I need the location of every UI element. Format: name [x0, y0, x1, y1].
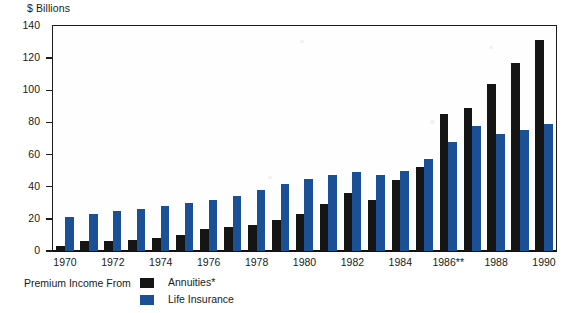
bar-group — [464, 26, 481, 251]
bar-life-insurance — [472, 126, 481, 251]
x-axis-label: 1984 — [389, 256, 412, 268]
bar-group — [56, 26, 73, 251]
bar-group — [104, 26, 121, 251]
bar-group — [272, 26, 289, 251]
bar-group — [200, 26, 217, 251]
bar-life-insurance — [304, 179, 313, 251]
bar-series-container — [53, 26, 556, 251]
chart-legend: Premium Income From Annuities* Life Insu… — [24, 276, 354, 312]
bar-life-insurance — [257, 190, 266, 251]
bar-annuities — [296, 214, 305, 251]
y-axis-unit-label: $ Billions — [27, 2, 70, 14]
x-axis-label: 1970 — [53, 256, 76, 268]
bar-group — [344, 26, 361, 251]
x-axis-label: 1980 — [293, 256, 316, 268]
bar-life-insurance — [185, 203, 194, 251]
bar-life-insurance — [352, 172, 361, 251]
y-axis-label: 0 — [0, 244, 40, 256]
y-axis-label: 120 — [0, 51, 40, 63]
bar-group — [535, 26, 552, 251]
y-axis-tick — [46, 186, 53, 187]
y-axis-tick — [46, 154, 53, 155]
bar-group — [416, 26, 433, 251]
x-axis-label: 1974 — [149, 256, 172, 268]
bar-group — [128, 26, 145, 251]
bar-annuities — [535, 40, 544, 251]
bar-life-insurance — [400, 171, 409, 251]
bar-life-insurance — [233, 196, 242, 251]
bar-group — [176, 26, 193, 251]
chart-figure: $ Billions 020406080100120140 1970197219… — [0, 0, 572, 313]
bar-life-insurance — [281, 184, 290, 252]
bar-annuities — [80, 241, 89, 251]
y-axis-tick — [46, 250, 53, 251]
bar-annuities — [176, 235, 185, 251]
bar-annuities — [56, 246, 65, 251]
bar-annuities — [464, 108, 473, 251]
legend-caption: Premium Income From — [24, 277, 131, 289]
bar-group — [296, 26, 313, 251]
bar-annuities — [224, 227, 233, 251]
x-axis-label: 1978 — [245, 256, 268, 268]
y-axis-label: 80 — [0, 115, 40, 127]
bar-group — [248, 26, 265, 251]
bar-life-insurance — [328, 175, 337, 251]
y-axis-label: 40 — [0, 180, 40, 192]
x-axis-label: 1972 — [101, 256, 124, 268]
x-axis-label: 1990 — [532, 256, 555, 268]
bar-group — [368, 26, 385, 251]
bar-annuities — [152, 238, 161, 251]
bar-annuities — [320, 204, 329, 251]
bar-annuities — [104, 241, 113, 251]
bar-life-insurance — [496, 134, 505, 251]
legend-swatch-annuities-icon — [140, 278, 154, 288]
bar-life-insurance — [520, 130, 529, 251]
bar-life-insurance — [424, 159, 433, 251]
bar-group — [487, 26, 504, 251]
bar-annuities — [368, 200, 377, 251]
bar-life-insurance — [544, 124, 553, 251]
legend-swatch-life-insurance-icon — [140, 295, 154, 305]
bar-life-insurance — [137, 209, 146, 251]
y-axis-label: 20 — [0, 212, 40, 224]
bar-life-insurance — [448, 142, 457, 251]
bar-group — [320, 26, 337, 251]
bar-annuities — [200, 229, 209, 252]
bar-annuities — [272, 220, 281, 251]
y-axis-tick — [46, 57, 53, 58]
bar-group — [511, 26, 528, 251]
y-axis-label: 100 — [0, 83, 40, 95]
bar-annuities — [416, 167, 425, 251]
bar-life-insurance — [209, 200, 218, 251]
bar-life-insurance — [113, 211, 122, 251]
legend-label-annuities: Annuities* — [168, 276, 215, 288]
x-axis-label: 1986** — [432, 256, 464, 268]
y-axis-label: 60 — [0, 148, 40, 160]
bar-group — [440, 26, 457, 251]
y-axis-tick — [46, 122, 53, 123]
y-axis-tick — [46, 90, 53, 91]
bar-annuities — [392, 180, 401, 251]
bar-group — [392, 26, 409, 251]
bar-annuities — [248, 225, 257, 251]
x-axis-label: 1976 — [197, 256, 220, 268]
bar-life-insurance — [376, 175, 385, 251]
bar-annuities — [128, 240, 137, 251]
bar-life-insurance — [89, 214, 98, 251]
bar-annuities — [440, 114, 449, 251]
x-axis-label: 1982 — [341, 256, 364, 268]
bar-annuities — [487, 84, 496, 251]
y-axis-label: 140 — [0, 19, 40, 31]
bar-group — [152, 26, 169, 251]
bar-annuities — [344, 193, 353, 251]
bar-annuities — [511, 63, 520, 251]
y-axis-tick — [46, 218, 53, 219]
x-axis-label: 1988 — [484, 256, 507, 268]
bar-group — [224, 26, 241, 251]
legend-label-life-insurance: Life Insurance — [168, 293, 234, 305]
bar-group — [80, 26, 97, 251]
bar-life-insurance — [161, 206, 170, 251]
bar-life-insurance — [65, 217, 74, 251]
